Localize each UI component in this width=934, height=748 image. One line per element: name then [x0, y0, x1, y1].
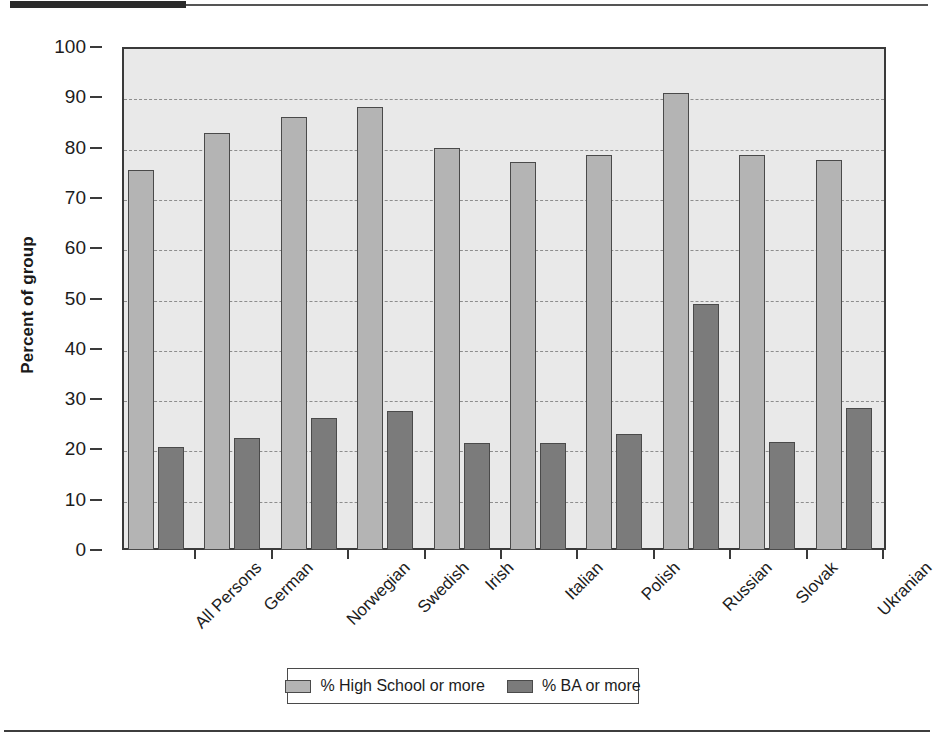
- bar-group: [810, 47, 886, 550]
- bar: [128, 170, 154, 550]
- bars-layer: [122, 47, 886, 550]
- y-tick-mark: [90, 348, 102, 350]
- y-tick-label: 80: [26, 138, 86, 157]
- bar: [586, 155, 612, 550]
- y-axis: 1009080706050403020100: [0, 10, 122, 590]
- legend-entry: % High School or more: [285, 677, 485, 695]
- bar: [769, 442, 795, 550]
- bar-group: [733, 47, 809, 550]
- bar: [158, 447, 184, 550]
- y-tick-mark: [90, 247, 102, 249]
- bar: [846, 408, 872, 550]
- bar: [204, 133, 230, 550]
- y-tick-label: 60: [26, 238, 86, 257]
- header-rule-thin-segment: [186, 4, 928, 6]
- y-tick-label: 50: [26, 289, 86, 308]
- y-tick-label: 20: [26, 439, 86, 458]
- bar: [663, 93, 689, 550]
- bar-group: [657, 47, 733, 550]
- bar: [510, 162, 536, 550]
- y-tick-mark: [90, 448, 102, 450]
- bar: [387, 411, 413, 550]
- bar: [816, 160, 842, 550]
- bar-group: [275, 47, 351, 550]
- y-tick-mark: [90, 298, 102, 300]
- y-tick-label: 0: [26, 540, 86, 559]
- bar-group: [580, 47, 656, 550]
- x-tick-label: German: [260, 558, 318, 616]
- y-tick-label: 10: [26, 490, 86, 509]
- x-tick-label: Norwegian: [343, 558, 415, 630]
- page-header-rule: [0, 0, 934, 10]
- x-tick-label: Italian: [561, 558, 607, 604]
- x-tick-label: Irish: [481, 558, 518, 595]
- y-tick-label: 100: [26, 37, 86, 56]
- y-tick-mark: [90, 147, 102, 149]
- chart-legend: % High School or more% BA or more: [287, 668, 639, 704]
- y-tick-label: 30: [26, 389, 86, 408]
- bar: [311, 418, 337, 550]
- bar-chart-figure: Percent of group 1009080706050403020100 …: [0, 10, 934, 726]
- bar: [540, 443, 566, 550]
- y-tick-mark: [90, 549, 102, 551]
- bar-group: [504, 47, 580, 550]
- x-axis-labels: All PersonsGermanNorwegianSwedishIrishIt…: [122, 558, 912, 668]
- x-tick-label: All Persons: [191, 558, 266, 633]
- bar-group: [351, 47, 427, 550]
- y-tick-mark: [90, 398, 102, 400]
- bar: [234, 438, 260, 550]
- bar: [739, 155, 765, 550]
- header-rule-dark-segment: [10, 1, 186, 8]
- light-gray-swatch: [285, 680, 311, 693]
- bar-group: [428, 47, 504, 550]
- y-tick-mark: [90, 46, 102, 48]
- bar: [281, 117, 307, 550]
- bar: [693, 304, 719, 550]
- y-tick-label: 40: [26, 339, 86, 358]
- bar: [434, 148, 460, 550]
- y-tick-label: 70: [26, 188, 86, 207]
- page-footer-rule: [4, 730, 930, 732]
- y-tick-label: 90: [26, 87, 86, 106]
- legend-label: % BA or more: [542, 677, 641, 695]
- bar-group: [122, 47, 198, 550]
- bar: [464, 443, 490, 550]
- bar: [616, 434, 642, 550]
- bar-group: [198, 47, 274, 550]
- x-tick-label: Swedish: [414, 558, 474, 618]
- legend-entry: % BA or more: [507, 677, 641, 695]
- x-tick-label: Ukranian: [874, 558, 934, 620]
- x-tick-label: Polish: [638, 558, 685, 605]
- x-tick-label: Slovak: [792, 558, 842, 608]
- y-tick-mark: [90, 96, 102, 98]
- x-tick-label: Russian: [719, 558, 777, 616]
- legend-label: % High School or more: [320, 677, 485, 695]
- dark-gray-swatch: [507, 680, 533, 693]
- bar: [357, 107, 383, 550]
- y-tick-mark: [90, 499, 102, 501]
- y-tick-mark: [90, 197, 102, 199]
